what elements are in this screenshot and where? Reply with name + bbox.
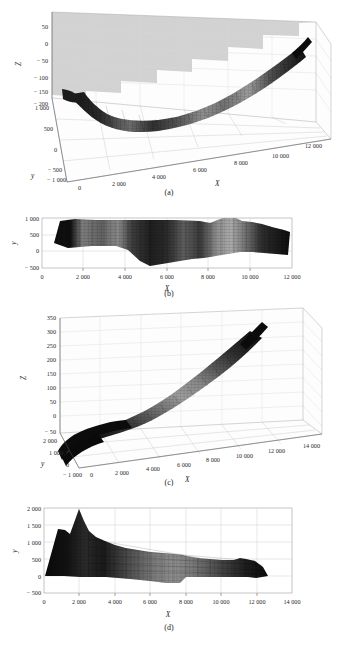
x-tick-label: 12 000 [305, 142, 322, 149]
y-tick-label: − 500 [27, 589, 41, 596]
z-axis-label: Z [14, 61, 23, 66]
x-tick-label: 6 000 [177, 461, 191, 468]
y-tick-label: − 500 [25, 264, 39, 271]
panel-a-plot: 50 0 − 50 − 100 − 150 − 200 Z 1 000 500 … [0, 0, 338, 200]
x-tick-label: 10 000 [272, 152, 289, 159]
z-ticks-a: 50 0 − 50 − 100 − 150 − 200 [34, 23, 48, 107]
panel-d: 2 000 1 500 1 000 500 0 − 500 y 0 2 000 … [0, 495, 338, 655]
x-tick-label: 2 000 [76, 273, 90, 280]
y-tick-label: 2 000 [27, 505, 41, 512]
z-tick-label: 200 [47, 356, 56, 363]
x-tick-label: 12 000 [283, 273, 300, 280]
x-tick-label: 0 [90, 471, 93, 478]
z-axis-label: Z [19, 375, 28, 380]
x-tick-label: 6 000 [143, 598, 157, 605]
x-tick-label: 14 000 [283, 598, 300, 605]
x-tick-label: 0 [42, 598, 45, 605]
panel-caption-b: (b) [0, 289, 338, 298]
x-tick-label: 4 000 [108, 598, 122, 605]
z-tick-label: 250 [47, 342, 56, 349]
x-tick-label: 8 000 [206, 456, 220, 463]
y-tick-label: 1 000 [27, 539, 41, 546]
y-tick-label: 500 [32, 556, 41, 563]
x-tick-label: 2 000 [72, 598, 86, 605]
x-tick-label: 8 000 [201, 273, 215, 280]
y-tick-label: − 500 [48, 166, 62, 173]
z-tick-label: 300 [47, 328, 56, 335]
x-tick-label: 8 000 [179, 598, 193, 605]
axis-x-d: 0 2 000 4 000 6 000 8 000 10 000 12 000 … [42, 593, 300, 619]
axis-y-b: 1 000 500 0 − 500 y [9, 215, 39, 271]
x-tick-label: 6 000 [160, 273, 174, 280]
x-tick-label: 10 000 [241, 273, 258, 280]
x-tick-label: 14 000 [303, 442, 320, 449]
y-tick-label: 500 [44, 125, 53, 132]
z-tick-label: 150 [47, 370, 56, 377]
y-axis-label: y [30, 171, 35, 180]
y-tick-label: 0 [36, 247, 39, 254]
x-tick-label: 12 000 [248, 598, 265, 605]
y-axis-label: y [10, 549, 19, 554]
y-tick-label: 0 [54, 146, 57, 153]
axis-y-d: 2 000 1 500 1 000 500 0 − 500 y [10, 505, 41, 596]
x-tick-label: 4 000 [146, 465, 160, 472]
y-tick-label: 1 000 [25, 215, 39, 222]
x-tick-label: 10 000 [236, 452, 253, 459]
axes3d-box-a [52, 12, 331, 182]
x-tick-label: 4 000 [118, 273, 132, 280]
panel-c: 350 300 250 200 150 100 50 0 − 50 Z 2 00… [0, 300, 338, 490]
z-tick-label: 100 [47, 384, 56, 391]
panel-caption-a: (a) [0, 188, 338, 197]
panel-b-plot: 1 000 500 0 − 500 y 0 2 000 4 000 6 000 … [0, 205, 338, 295]
y-tick-label: 0 [66, 461, 69, 468]
y-axis-label: y [9, 241, 18, 246]
x-tick-label: 2 000 [112, 180, 126, 187]
y-tick-label: − 1 000 [63, 471, 82, 478]
x-tick-label: 0 [40, 273, 43, 280]
z-tick-label: − 100 [34, 74, 48, 81]
z-tick-label: 350 [47, 314, 56, 321]
y-tick-label: 0 [38, 573, 41, 580]
z-tick-label: 50 [50, 398, 56, 405]
panel-c-plot: 350 300 250 200 150 100 50 0 − 50 Z 2 00… [0, 300, 338, 490]
x-axis-label: X [165, 610, 171, 619]
x-axis-label: X [214, 179, 220, 188]
z-tick-label: − 50 [37, 57, 48, 64]
z-tick-label: − 150 [34, 88, 48, 95]
x-tick-label: 8 000 [234, 159, 248, 166]
y-tick-label: 500 [30, 231, 39, 238]
x-tick-label: 10 000 [212, 598, 229, 605]
z-tick-label: 50 [42, 23, 48, 30]
axis-z-c: 350 300 250 200 150 100 50 0 − 50 Z [19, 314, 60, 435]
z-tick-label: − 50 [45, 428, 56, 435]
panel-caption-d: (d) [0, 623, 338, 632]
panel-b: 1 000 500 0 − 500 y 0 2 000 4 000 6 000 … [0, 205, 338, 295]
axis-z-a: 50 0 − 50 − 100 − 150 − 200 Z [14, 12, 52, 107]
panel-a: 50 0 − 50 − 100 − 150 − 200 Z 1 000 500 … [0, 0, 338, 200]
y-tick-label: 2 000 [43, 437, 57, 444]
panel-caption-c: (c) [0, 478, 338, 487]
y-tick-label: 1 000 [49, 449, 63, 456]
y-tick-label: 1 000 [35, 104, 49, 111]
z-tick-label: 0 [53, 412, 56, 419]
y-tick-label: − 1 000 [47, 176, 66, 183]
x-tick-label: 6 000 [193, 166, 207, 173]
x-tick-label: 2 000 [115, 469, 129, 476]
z-tick-label: 0 [45, 40, 48, 47]
y-axis-label: y [40, 459, 45, 468]
y-tick-label: 1 500 [27, 522, 41, 529]
x-tick-label: 4 000 [152, 173, 166, 180]
figure-container: 50 0 − 50 − 100 − 150 − 200 Z 1 000 500 … [0, 0, 338, 655]
x-tick-label: 12 000 [268, 447, 285, 454]
